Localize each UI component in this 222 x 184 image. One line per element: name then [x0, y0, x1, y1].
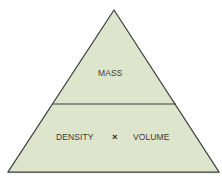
multiply-operator: × — [112, 132, 118, 142]
triangle-shape — [8, 10, 219, 172]
volume-label: VOLUME — [133, 133, 170, 142]
triangle-graphic — [0, 0, 222, 184]
formula-triangle-diagram: MASS DENSITY × VOLUME — [0, 0, 222, 184]
density-label: DENSITY — [56, 133, 94, 142]
mass-label: MASS — [98, 69, 123, 78]
